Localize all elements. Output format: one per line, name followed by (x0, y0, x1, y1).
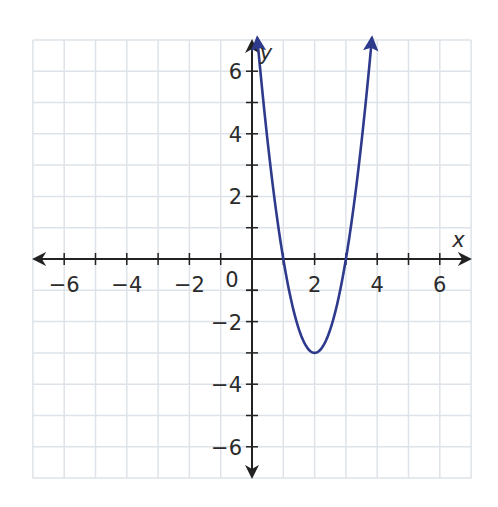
x-tick-label: −2 (174, 273, 205, 297)
coordinate-plane: −6−4−2246−6−4−2246 x y 0 (0, 0, 498, 507)
x-tick-label: 4 (371, 273, 384, 297)
x-tick-label: −6 (49, 273, 80, 297)
y-tick-label: −6 (211, 436, 242, 460)
x-axis-label: x (451, 228, 465, 252)
x-tick-label: −4 (111, 273, 142, 297)
origin-label: 0 (225, 268, 238, 292)
x-tick-label: 2 (308, 273, 321, 297)
y-tick-label: 2 (229, 185, 242, 209)
axes (35, 42, 469, 476)
y-tick-label: −2 (211, 311, 242, 335)
y-axis-label: y (259, 41, 273, 65)
y-tick-label: 4 (229, 123, 242, 147)
y-tick-label: 6 (229, 60, 242, 84)
x-tick-label: 6 (433, 273, 446, 297)
y-tick-label: −4 (211, 373, 242, 397)
